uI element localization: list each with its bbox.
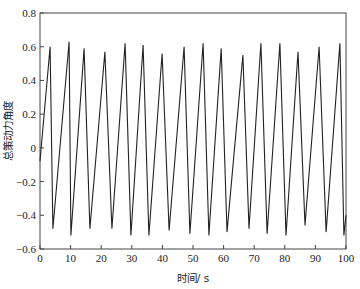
x-axis-ticks: 0102030405060708090100 (37, 245, 355, 264)
y-tick-label: 0.4 (22, 74, 36, 86)
x-tick-label: 90 (310, 252, 322, 264)
series-line (40, 42, 346, 236)
x-tick-label: 60 (218, 252, 230, 264)
y-tick-label: 0.8 (22, 7, 36, 19)
y-axis-label: 总策动力角度 (2, 100, 14, 161)
y-tick-label: −0.2 (16, 176, 36, 188)
y-tick-label: 0 (31, 142, 37, 154)
x-tick-label: 10 (65, 252, 77, 264)
data-series (40, 42, 346, 236)
y-tick-label: 0.6 (22, 41, 36, 53)
x-tick-label: 30 (126, 252, 138, 264)
x-tick-label: 80 (279, 252, 291, 264)
x-tick-label: 40 (157, 252, 169, 264)
plot-frame (40, 13, 346, 249)
x-tick-label: 50 (188, 252, 200, 264)
plot-border (40, 13, 346, 249)
line-chart: 0102030405060708090100 −0.6−0.4−0.200.20… (0, 0, 360, 289)
x-tick-label: 0 (37, 252, 43, 264)
y-tick-label: 0.2 (22, 108, 36, 120)
x-axis-label: 时间/ s (177, 272, 209, 284)
y-tick-label: −0.4 (16, 209, 36, 221)
y-tick-label: −0.6 (16, 243, 36, 255)
x-tick-label: 20 (96, 252, 108, 264)
x-tick-label: 100 (338, 252, 355, 264)
x-tick-label: 70 (249, 252, 261, 264)
